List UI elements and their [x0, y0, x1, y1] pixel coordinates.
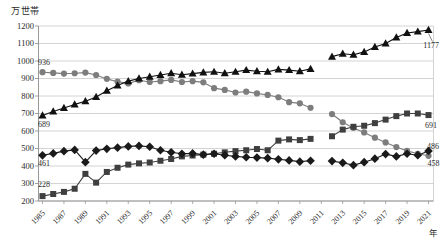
diamond-marker-2015: [360, 158, 369, 167]
y-axis-label-1200: 1200: [17, 21, 34, 31]
x-axis-label-2011: 2011: [308, 209, 325, 226]
x-axis-label-1985: 1985: [29, 209, 47, 227]
square-marker-1987: [61, 189, 67, 195]
circle-marker-1996: [157, 78, 163, 84]
diamond-marker-1999: [188, 149, 197, 158]
circle-marker-1989: [82, 69, 88, 75]
diamond-series-start-label: 461: [38, 159, 50, 168]
circle-marker-1987: [61, 71, 67, 77]
circle-marker-2017: [383, 139, 389, 145]
y-axis-label-500: 500: [21, 143, 34, 153]
x-axis-label-1997: 1997: [158, 209, 176, 227]
circle-series-end-label: 458: [428, 159, 440, 168]
diamond-marker-2012: [328, 157, 337, 166]
square-marker-2013: [340, 127, 346, 133]
y-axis-label-1100: 1100: [17, 38, 34, 48]
triangle-marker-2001: [210, 68, 218, 75]
circle-marker-2015: [361, 129, 367, 135]
triangle-series-start-label: 689: [38, 120, 50, 129]
triangle-marker-1997: [167, 69, 175, 76]
diamond-marker-1997: [167, 148, 176, 157]
square-series-start-label: 228: [38, 180, 50, 189]
diamond-marker-1993: [124, 142, 133, 151]
y-axis-label-1000: 1000: [17, 56, 34, 66]
y-axis-label-800: 800: [21, 91, 34, 101]
diamond-marker-2004: [242, 153, 251, 162]
square-marker-2017: [383, 117, 389, 123]
y-axis-label-900: 900: [21, 73, 34, 83]
diamond-marker-2010: [306, 156, 315, 165]
circle-marker-2012: [329, 111, 335, 117]
x-axis-label-2007: 2007: [265, 209, 283, 227]
diamond-marker-2001: [210, 149, 219, 158]
circle-marker-2010: [307, 105, 313, 111]
square-marker-2008: [286, 136, 292, 142]
triangle-series-end-label: 1177: [423, 41, 439, 50]
square-marker-2019: [404, 111, 410, 117]
diamond-series-end-label: 486: [427, 142, 439, 151]
diamond-marker-1992: [113, 143, 122, 152]
circle-marker-2018: [393, 144, 399, 150]
square-marker-1992: [115, 165, 121, 171]
circle-marker-1990: [93, 72, 99, 78]
diamond-marker-2016: [371, 154, 380, 163]
diamond-marker-2005: [253, 153, 262, 162]
circle-marker-2006: [265, 92, 271, 98]
x-axis-label-2019: 2019: [394, 209, 412, 227]
triangle-marker-2017: [382, 39, 390, 46]
y-axis-unit-label: 万世帯: [11, 4, 40, 17]
square-marker-2006: [265, 147, 271, 153]
circle-marker-1991: [104, 76, 110, 82]
x-axis-label-1989: 1989: [72, 209, 90, 227]
circle-marker-1985: [39, 69, 45, 75]
x-axis-label-2001: 2001: [201, 209, 219, 227]
diamond-marker-2020: [413, 151, 422, 160]
diamond-marker-2006: [263, 154, 272, 163]
x-axis-label-2009: 2009: [287, 209, 305, 227]
x-axis-label-2015: 2015: [351, 209, 369, 227]
x-axis-label-2021: 2021: [415, 209, 433, 227]
square-marker-1995: [147, 160, 153, 166]
x-axis-label-2005: 2005: [244, 209, 262, 227]
diamond-marker-1995: [145, 142, 154, 151]
triangle-marker-2013: [339, 49, 347, 56]
circle-marker-2000: [200, 79, 206, 85]
square-marker-2018: [393, 113, 399, 119]
square-marker-2010: [308, 136, 314, 142]
diamond-marker-2009: [296, 157, 305, 166]
square-marker-1991: [104, 169, 110, 175]
circle-marker-1997: [168, 77, 174, 83]
square-marker-2005: [254, 146, 260, 152]
square-marker-2014: [350, 124, 356, 130]
x-axis-label-1999: 1999: [179, 209, 197, 227]
square-marker-1990: [93, 180, 99, 186]
diamond-marker-2007: [274, 155, 283, 164]
circle-marker-2009: [297, 100, 303, 106]
x-axis-label-2013: 2013: [329, 209, 347, 227]
square-marker-2016: [372, 120, 378, 126]
square-series-line: [332, 114, 429, 137]
x-axis-label-2017: 2017: [372, 209, 390, 227]
triangle-series-line: [43, 69, 311, 116]
circle-marker-1999: [190, 78, 196, 84]
square-marker-2021: [426, 112, 432, 118]
x-axis-label-1991: 1991: [94, 209, 112, 227]
square-marker-1994: [136, 160, 142, 166]
x-axis-label-1995: 1995: [136, 209, 154, 227]
x-axis-label-2003: 2003: [222, 209, 240, 227]
y-axis-label-200: 200: [21, 196, 34, 206]
square-marker-2009: [297, 137, 303, 143]
circle-marker-1986: [50, 70, 56, 76]
triangle-marker-2021: [425, 26, 433, 33]
square-marker-1986: [50, 191, 56, 197]
circle-marker-2007: [275, 94, 281, 100]
circle-marker-2001: [211, 85, 217, 91]
triangle-marker-2010: [307, 65, 315, 72]
circle-marker-2016: [372, 135, 378, 141]
y-axis-label-600: 600: [21, 126, 34, 136]
square-marker-1989: [82, 171, 88, 177]
square-marker-1996: [157, 158, 163, 164]
diamond-marker-1991: [103, 145, 112, 154]
square-marker-2007: [275, 138, 281, 144]
circle-marker-2003: [232, 89, 238, 95]
